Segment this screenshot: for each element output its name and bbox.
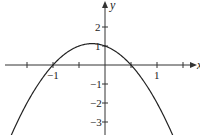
x-tick-label-1: 1	[154, 69, 160, 81]
y-tick-label-2: 2	[95, 21, 101, 33]
x-axis-label: x	[196, 58, 200, 72]
y-axis-label: y	[109, 0, 116, 12]
parabola-chart: y x −1 1 2 1 −1 −2 −3	[0, 0, 200, 135]
x-axis-arrow-icon	[190, 62, 197, 68]
y-tick-label-neg1: −1	[90, 78, 102, 90]
y-tick-label-neg3: −3	[90, 116, 102, 128]
y-tick-label-1: 1	[95, 40, 101, 52]
y-tick-label-neg2: −2	[90, 97, 102, 109]
y-axis-arrow-icon	[102, 1, 108, 8]
